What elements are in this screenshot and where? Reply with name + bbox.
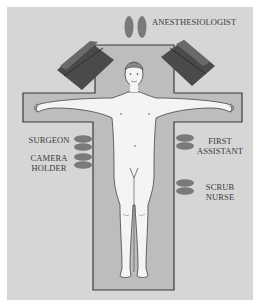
first-assistant-label-line1: FIRST <box>196 136 244 146</box>
first-assistant-label: FIRST ASSISTANT <box>196 136 244 156</box>
scrub-nurse-label-line2: NURSE <box>199 192 241 202</box>
scrub-nurse-label: SCRUB NURSE <box>199 182 241 202</box>
surgeon-feet-icon <box>74 135 92 151</box>
surgeon-label: SURGEON <box>28 135 70 145</box>
anesthesiologist-feet-icon <box>125 16 147 38</box>
anesthesiologist-label: ANESTHESIOLOGIST <box>152 17 236 27</box>
scrub-nurse-label-line1: SCRUB <box>199 182 241 192</box>
scrub-nurse-feet-icon <box>176 179 194 195</box>
first-assistant-feet-icon <box>176 134 194 150</box>
camera-holder-feet-icon <box>74 153 92 169</box>
camera-holder-label-line2: HOLDER <box>28 163 70 173</box>
camera-holder-label: CAMERA HOLDER <box>28 153 70 173</box>
camera-holder-label-line1: CAMERA <box>28 153 70 163</box>
first-assistant-label-line2: ASSISTANT <box>196 146 244 156</box>
